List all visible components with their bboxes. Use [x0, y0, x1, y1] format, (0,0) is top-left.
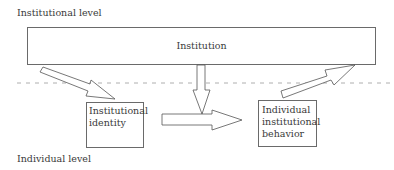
identity-label-line2: identity: [89, 117, 126, 129]
identity-label-line1: Institutional: [89, 105, 148, 117]
arrow-institution-down: [193, 65, 210, 114]
individual-level-label: Individual level: [17, 153, 91, 164]
arrow-institution-to-identity: [40, 67, 115, 99]
behavior-label-line2: institutional: [262, 116, 320, 128]
behavior-label-line1: Individual: [262, 104, 310, 116]
diagram-connectors: [0, 0, 394, 170]
institutional-identity-box: Institutional identity: [86, 102, 144, 148]
behavior-label-line3: behavior: [262, 128, 304, 140]
arrow-behavior-to-institution: [281, 65, 355, 98]
individual-behavior-box: Individual institutional behavior: [258, 100, 317, 147]
